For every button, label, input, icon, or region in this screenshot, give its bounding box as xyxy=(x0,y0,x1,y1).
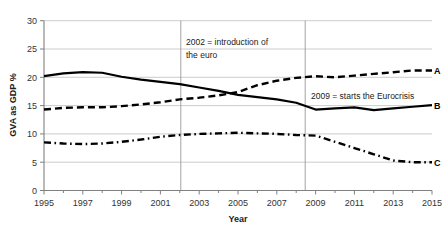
x-tick-label-1999: 1999 xyxy=(112,198,132,208)
x-tick-label-2011: 2011 xyxy=(345,198,364,208)
chart-plot-area: 30 25 20 15 10 5 0 199519971999200120032… xyxy=(0,0,447,236)
y-tick-label-10: 10 xyxy=(27,129,37,139)
x-tick-label-1995: 1995 xyxy=(34,198,54,208)
x-axis-title: Year xyxy=(228,214,248,224)
annotation-eurocrisis-line1: 2009 = starts the Eurocrisis xyxy=(311,91,414,101)
x-tick-label-2009: 2009 xyxy=(306,198,326,208)
y-axis-title: GVA as GDP % xyxy=(8,73,18,136)
annotation-euro-intro-line1: 2002 = introduction of xyxy=(186,37,269,47)
y-tick-label-0: 0 xyxy=(32,186,37,196)
y-tick-label-30: 30 xyxy=(27,16,37,26)
x-tick-label-1997: 1997 xyxy=(73,198,93,208)
x-tick-label-2013: 2013 xyxy=(383,198,403,208)
chart-figure: 30 25 20 15 10 5 0 199519971999200120032… xyxy=(0,0,447,236)
x-tick-label-2005: 2005 xyxy=(228,198,248,208)
series-label-c: C xyxy=(434,158,441,168)
y-tick-label-25: 25 xyxy=(27,44,37,54)
x-tick-label-2003: 2003 xyxy=(189,198,209,208)
y-tick-label-15: 15 xyxy=(27,101,37,111)
x-tick-label-2001: 2001 xyxy=(150,198,170,208)
series-label-b: B xyxy=(434,101,441,111)
chart-background xyxy=(0,0,447,236)
series-label-a: A xyxy=(434,66,441,76)
y-tick-label-20: 20 xyxy=(27,73,37,83)
x-tick-label-2015: 2015 xyxy=(422,198,442,208)
annotation-eurocrisis-start: 2009 = starts the Eurocrisis xyxy=(311,91,414,101)
annotation-euro-intro-line2: the euro xyxy=(186,50,217,60)
x-tick-label-2007: 2007 xyxy=(267,198,287,208)
y-tick-label-5: 5 xyxy=(32,158,37,168)
